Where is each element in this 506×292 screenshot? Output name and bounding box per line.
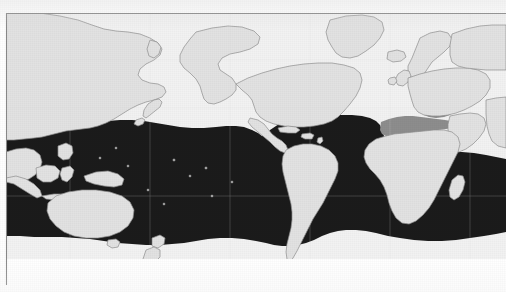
land-pacific-island — [115, 147, 117, 149]
land-pacific-island — [163, 203, 165, 205]
land-hispaniola — [301, 133, 314, 139]
land-pacific-island — [147, 189, 149, 191]
land-pacific-island — [189, 175, 191, 177]
distribution-map-figure — [0, 0, 506, 292]
land-pacific-island — [127, 165, 129, 167]
land-pacific-island — [99, 157, 101, 159]
land-pacific-island — [231, 181, 233, 183]
land-pacific-island — [173, 159, 175, 161]
land-pacific-island — [205, 167, 207, 169]
land-northern-asia — [450, 25, 506, 70]
world-map-graphic — [0, 0, 506, 292]
map-plot-area — [6, 13, 506, 264]
